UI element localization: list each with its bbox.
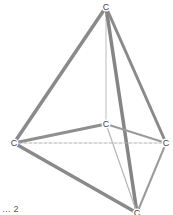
atom-left-label: C [11, 138, 18, 148]
bond-left-bottom [14, 143, 137, 213]
caption-fragment: … 2 [2, 204, 19, 214]
atom-top-label: C [103, 2, 110, 12]
molecule-diagram: CCCCC [0, 0, 173, 215]
bond-top-bottom [106, 7, 137, 213]
atom-bottom-label: C [134, 208, 141, 215]
bond-left-mid [14, 124, 106, 143]
bond-mid-right [106, 124, 166, 143]
bond-right-bottom [137, 143, 166, 213]
atom-right-label: C [163, 138, 170, 148]
atom-mid-label: C [103, 119, 110, 129]
bond-top-left [14, 7, 106, 143]
